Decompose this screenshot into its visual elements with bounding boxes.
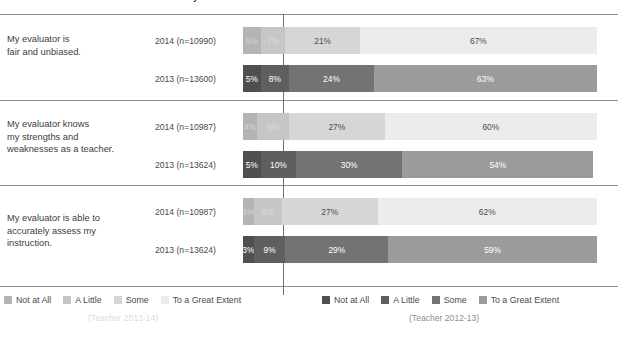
legend-item-label: A Little xyxy=(393,295,419,305)
bar-segment[interactable]: 10% xyxy=(261,151,296,178)
bar-segment[interactable]: 9% xyxy=(254,236,286,263)
bar-segment-value: 60% xyxy=(482,122,499,132)
stacked-bar[interactable]: 3%8%27%62% xyxy=(243,198,597,225)
legend-caption-2013-14: (Teacher 2013-14) xyxy=(88,313,158,323)
legend-swatch-icon xyxy=(4,296,12,304)
bar-segment-value: 8% xyxy=(262,207,274,217)
legend-2013-14: Not at AllA LittleSomeTo a Great Extent xyxy=(4,295,253,305)
bar-segment[interactable]: 21% xyxy=(285,27,359,54)
separator-rule-bottom xyxy=(0,286,618,287)
separator-rule-top xyxy=(0,14,618,15)
stacked-bar[interactable]: 3%9%29%59% xyxy=(243,236,597,263)
legend-2012-13: Not at AllA LittleSomeTo a Great Extent xyxy=(322,295,571,305)
bar-segment-value: 7% xyxy=(267,36,279,46)
question-label: My evaluator knowsmy strengths andweakne… xyxy=(7,118,157,156)
legend-swatch-icon xyxy=(381,296,389,304)
bar-segment-value: 62% xyxy=(479,207,496,217)
bar-segment[interactable]: 5% xyxy=(243,27,261,54)
separator-rule-2 xyxy=(0,185,618,186)
bar-segment[interactable]: 8% xyxy=(261,65,289,92)
bar-segment[interactable]: 4% xyxy=(243,113,257,140)
bar-segment[interactable]: 63% xyxy=(374,65,597,92)
question-label-line: weaknesses as a teacher. xyxy=(7,143,157,156)
bar-segment-value: 3% xyxy=(243,207,254,217)
bar-segment[interactable]: 27% xyxy=(282,198,378,225)
bar-segment[interactable]: 3% xyxy=(243,236,254,263)
legend-swatch-icon xyxy=(432,296,440,304)
bar-segment[interactable]: 60% xyxy=(385,113,597,140)
legend-item-label: Not at All xyxy=(16,295,51,305)
legend-item[interactable]: Some xyxy=(432,295,467,305)
bar-segment-value: 59% xyxy=(484,245,501,255)
bar-segment[interactable]: 9% xyxy=(257,113,289,140)
bar-segment-value: 5% xyxy=(246,74,258,84)
question-label: My evaluator is able toaccurately assess… xyxy=(7,212,157,250)
bar-segment-value: 27% xyxy=(328,122,345,132)
bar-segment[interactable]: 59% xyxy=(388,236,597,263)
stacked-bar[interactable]: 5%8%24%63% xyxy=(243,65,597,92)
stacked-bar[interactable]: 4%9%27%60% xyxy=(243,113,597,140)
legend-item[interactable]: A Little xyxy=(381,295,419,305)
stacked-bar[interactable]: 5%7%21%67% xyxy=(243,27,597,54)
bar-segment[interactable]: 54% xyxy=(402,151,593,178)
legend-swatch-icon xyxy=(161,296,169,304)
legend-item[interactable]: A Little xyxy=(63,295,101,305)
bar-segment-value: 9% xyxy=(267,122,279,132)
bar-segment-value: 8% xyxy=(269,74,281,84)
bar-segment[interactable]: 67% xyxy=(360,27,597,54)
bar-segment-value: 4% xyxy=(244,122,256,132)
bar-segment-value: 54% xyxy=(489,160,506,170)
bar-segment-value: 27% xyxy=(321,207,338,217)
bar-segment-value: 67% xyxy=(470,36,487,46)
legend-item-label: Some xyxy=(126,295,149,305)
question-label-line: My evaluator knows xyxy=(7,118,157,131)
legend-item-label: To a Great Extent xyxy=(173,295,241,305)
bar-segment-value: 24% xyxy=(323,74,340,84)
bar-segment[interactable]: 5% xyxy=(243,151,261,178)
bar-segment-value: 3% xyxy=(243,245,254,255)
bar-segment[interactable]: 5% xyxy=(243,65,261,92)
legend-item[interactable]: Some xyxy=(114,295,149,305)
question-label-line: My evaluator is able to xyxy=(7,212,157,225)
bar-segment-value: 5% xyxy=(246,160,258,170)
legend-item[interactable]: Not at All xyxy=(322,295,369,305)
bar-segment[interactable]: 27% xyxy=(289,113,385,140)
bar-segment-value: 5% xyxy=(246,36,258,46)
bar-segment[interactable]: 7% xyxy=(261,27,286,54)
legend-caption-2012-13: (Teacher 2012-13) xyxy=(409,313,479,323)
stacked-bar[interactable]: 5%10%30%54% xyxy=(243,151,597,178)
bar-segment[interactable]: 24% xyxy=(289,65,374,92)
legend-item-label: To a Great Extent xyxy=(491,295,559,305)
bar-segment-value: 29% xyxy=(328,245,345,255)
question-label-line: fair and unbiased. xyxy=(7,46,157,59)
question-label: My evaluator isfair and unbiased. xyxy=(7,33,157,58)
legend-item-label: Not at All xyxy=(334,295,369,305)
separator-rule-1 xyxy=(0,100,618,101)
legend-item[interactable]: Not at All xyxy=(4,295,51,305)
bar-segment-value: 21% xyxy=(314,36,331,46)
legend-swatch-icon xyxy=(322,296,330,304)
legend-swatch-icon xyxy=(63,296,71,304)
bar-segment-value: 9% xyxy=(263,245,275,255)
question-label-line: instruction. xyxy=(7,237,157,250)
legend-item[interactable]: To a Great Extent xyxy=(161,295,241,305)
bar-segment[interactable]: 30% xyxy=(296,151,402,178)
bar-segment[interactable]: 3% xyxy=(243,198,254,225)
legend-swatch-icon xyxy=(479,296,487,304)
page-title: 2012-13 and 2013-14 TELL Teacher Survey xyxy=(0,0,620,2)
bar-segment-value: 10% xyxy=(270,160,287,170)
chart-page: 2012-13 and 2013-14 TELL Teacher Survey … xyxy=(0,0,627,348)
legend-item[interactable]: To a Great Extent xyxy=(479,295,559,305)
bar-segment[interactable]: 29% xyxy=(285,236,388,263)
bar-segment-value: 30% xyxy=(341,160,358,170)
legend-swatch-icon xyxy=(114,296,122,304)
legend-item-label: Some xyxy=(444,295,467,305)
bar-segment-value: 63% xyxy=(477,74,494,84)
question-label-line: my strengths and xyxy=(7,131,157,144)
question-label-line: accurately assess my xyxy=(7,225,157,238)
legend-item-label: A Little xyxy=(75,295,101,305)
question-label-line: My evaluator is xyxy=(7,33,157,46)
bar-segment[interactable]: 8% xyxy=(254,198,282,225)
bar-segment[interactable]: 62% xyxy=(378,198,597,225)
